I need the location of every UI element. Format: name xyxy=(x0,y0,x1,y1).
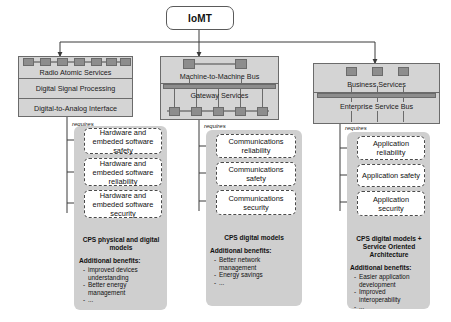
bus-node-icon xyxy=(346,67,357,76)
bus-node-icon xyxy=(120,58,131,66)
layer-row-enterprise-service-bus[interactable]: Enterprise Service Bus xyxy=(314,92,439,123)
layer-row-gateway-services[interactable]: Gateway Services xyxy=(161,83,278,119)
requirement-communications-reliability[interactable]: Communications reliability xyxy=(216,134,296,158)
root-node-label: IoMT xyxy=(188,13,212,24)
benefit-label: ... xyxy=(359,303,364,310)
bullet-dash-icon: - xyxy=(214,279,216,287)
layer-box-radio-atomic-services[interactable]: Radio Atomic Services Digital Signal Pro… xyxy=(18,56,133,117)
benefit-item: -Energy savings xyxy=(219,271,298,279)
benefits-heading: Additional benefits: xyxy=(79,257,163,265)
requirement-label: Application safety xyxy=(362,171,420,180)
benefit-item: -... xyxy=(219,279,298,287)
bus-stem-icon xyxy=(377,86,378,93)
bus-node-icon xyxy=(372,67,383,76)
bus-node-icon xyxy=(183,59,195,69)
benefits-heading: Additional benefits: xyxy=(350,264,428,272)
bullet-dash-icon: - xyxy=(354,288,356,296)
benefit-item: -... xyxy=(359,303,428,311)
bus-stem-icon xyxy=(403,86,404,93)
requirement-application-safety[interactable]: Application safety xyxy=(357,164,425,187)
benefits-list: -Easier application development -Improve… xyxy=(350,273,428,311)
bullet-dash-icon: - xyxy=(83,281,85,289)
requirement-label: Communications security xyxy=(220,194,292,212)
summary-business: CPS digital models + Service Oriented Ar… xyxy=(350,235,428,311)
bullet-dash-icon: - xyxy=(83,296,85,304)
requirement-hardware-reliability[interactable]: Hardware and embeded software reliabilit… xyxy=(84,158,162,186)
requires-label-business: requires xyxy=(345,125,367,131)
requirement-hardware-security[interactable]: Hardware and embeded software security xyxy=(84,190,162,218)
layer-row-radio-atomic-services[interactable]: Radio Atomic Services xyxy=(19,57,132,78)
bus-node-icon xyxy=(191,107,202,116)
benefit-label: improved devices understanding xyxy=(88,266,138,281)
bus-node-icon xyxy=(169,107,180,116)
layer-row-label: Digital-to-Analog Interface xyxy=(34,104,117,113)
summary-m2m: CPS digital models Additional benefits: … xyxy=(210,234,298,286)
bus-node-icon xyxy=(398,67,409,76)
bus-stem-icon xyxy=(351,86,352,93)
requirement-label: Hardware and embeded software reliabilit… xyxy=(88,159,158,186)
requires-label-m2m: requires xyxy=(204,123,226,129)
bus-node-icon xyxy=(106,58,117,66)
benefit-label: Easier application development xyxy=(359,273,409,288)
requirement-label: Application security xyxy=(361,195,421,213)
benefit-label: Improved interoperability xyxy=(359,288,401,303)
requirement-application-reliability[interactable]: Application reliability xyxy=(357,136,425,160)
bus-node-icon xyxy=(74,58,85,66)
summary-title: CPS physical and digital models xyxy=(79,236,163,252)
requirement-label: Communications reliability xyxy=(220,137,292,155)
bullet-dash-icon: - xyxy=(83,266,85,274)
bullet-dash-icon: - xyxy=(214,271,216,279)
benefit-label: Better energy management xyxy=(88,281,126,296)
requirement-label: Application reliability xyxy=(361,139,421,157)
requirement-application-security[interactable]: Application security xyxy=(357,191,425,216)
benefit-item: -improved devices understanding xyxy=(88,266,163,281)
benefit-label: ... xyxy=(219,279,224,286)
bus-node-icon xyxy=(23,58,34,66)
iomt-architecture-diagram: IoMT Radio Atomic Services Digital Signa… xyxy=(0,0,451,322)
bus-node-icon xyxy=(40,58,51,66)
layer-box-business-services[interactable]: Business Services Enterprise Service Bus xyxy=(313,63,440,124)
requirement-label: Hardware and embeded software safety xyxy=(88,128,158,155)
requirement-communications-security[interactable]: Communications security xyxy=(216,190,296,215)
benefit-label: Better network management xyxy=(219,256,260,271)
benefit-item: -Better network management xyxy=(219,256,298,271)
layer-row-label: Gateway Services xyxy=(161,91,278,100)
requirement-label: Communications safety xyxy=(220,165,292,183)
layer-row-digital-signal-processing[interactable]: Digital Signal Processing xyxy=(19,78,132,98)
bus-node-icon xyxy=(257,107,268,116)
bullet-dash-icon: - xyxy=(354,303,356,311)
benefits-list: -improved devices understanding -Better … xyxy=(79,266,163,304)
summary-title: CPS digital models + Service Oriented Ar… xyxy=(350,235,428,259)
bus-node-icon xyxy=(235,59,247,69)
requirement-communications-safety[interactable]: Communications safety xyxy=(216,162,296,186)
requirement-label: Hardware and embeded software security xyxy=(88,191,158,218)
layer-box-machine-to-machine[interactable]: Machine-to-Machine Bus Gateway Services xyxy=(160,56,279,120)
root-node-iomt[interactable]: IoMT xyxy=(166,6,234,30)
benefit-item: -Easier application development xyxy=(359,273,428,288)
layer-row-label: Digital Signal Processing xyxy=(36,84,116,93)
layer-row-label: Enterprise Service Bus xyxy=(314,102,439,111)
layer-row-label: Radio Atomic Services xyxy=(19,68,132,77)
benefit-label: ... xyxy=(88,296,93,303)
bullet-dash-icon: - xyxy=(214,256,216,264)
bus-node-icon xyxy=(213,107,224,116)
benefits-heading: Additional benefits: xyxy=(210,247,298,255)
requirement-hardware-safety[interactable]: Hardware and embeded software safety xyxy=(84,128,162,154)
bus-bar-icon xyxy=(163,84,276,89)
summary-radio: CPS physical and digital models Addition… xyxy=(79,236,163,304)
layer-row-label: Machine-to-Machine Bus xyxy=(161,72,278,81)
benefit-item: -... xyxy=(88,296,163,304)
layer-row-machine-to-machine-bus[interactable]: Machine-to-Machine Bus xyxy=(161,57,278,83)
bus-node-icon xyxy=(91,58,102,66)
bus-node-icon xyxy=(235,107,246,116)
benefit-item: -Better energy management xyxy=(88,281,163,296)
bullet-dash-icon: - xyxy=(354,273,356,281)
benefit-label: Energy savings xyxy=(219,271,263,278)
benefits-list: -Better network management -Energy savin… xyxy=(210,256,298,286)
benefit-item: -Improved interoperability xyxy=(359,288,428,303)
summary-title: CPS digital models xyxy=(210,234,298,242)
bus-node-icon xyxy=(57,58,68,66)
layer-row-digital-to-analog-interface[interactable]: Digital-to-Analog Interface xyxy=(19,98,132,118)
